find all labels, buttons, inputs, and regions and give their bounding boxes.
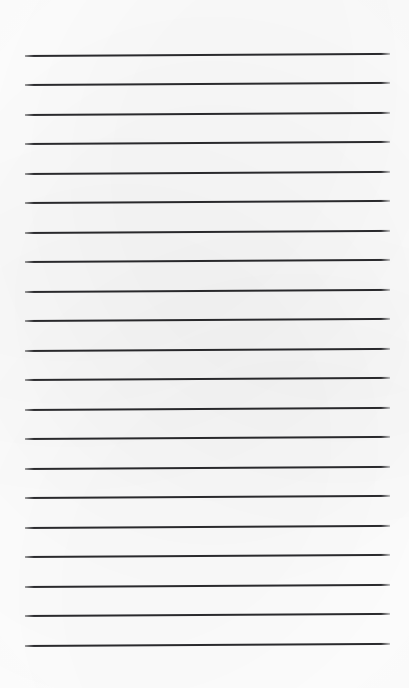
ruled-line	[25, 112, 390, 116]
ruled-line	[25, 289, 390, 293]
ruled-line	[25, 200, 390, 204]
ruled-line	[25, 230, 390, 234]
ruled-line	[25, 53, 390, 57]
ruled-line	[25, 584, 390, 588]
ruled-line	[25, 407, 390, 411]
ruled-line	[25, 554, 390, 558]
ruled-line	[25, 141, 390, 145]
ruled-line	[25, 377, 390, 381]
ruled-line	[25, 171, 390, 175]
lined-paper-page	[0, 0, 409, 688]
ruled-line	[25, 348, 390, 352]
ruled-line	[25, 613, 390, 617]
ruled-line	[25, 436, 390, 440]
ruled-line	[25, 525, 390, 529]
ruled-line	[25, 495, 390, 499]
ruled-lines-group	[0, 0, 409, 688]
ruled-line	[25, 259, 390, 263]
ruled-line	[25, 466, 390, 470]
ruled-line	[25, 82, 390, 86]
ruled-line	[25, 318, 390, 322]
ruled-line	[25, 643, 390, 647]
